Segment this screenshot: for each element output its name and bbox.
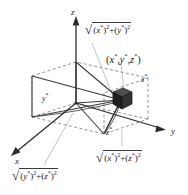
point-close-paren: ) — [137, 54, 141, 65]
y-axis-label: y — [171, 127, 175, 136]
radical-sign-xy: √ — [85, 22, 92, 37]
point-marker-cube — [113, 88, 132, 109]
x-axis-label: x — [15, 157, 19, 166]
z-axis-label: z — [71, 8, 75, 17]
y-axis-arrowhead — [155, 126, 166, 133]
inner-label-x-star: x* — [141, 73, 148, 84]
xy-power-2: 2 — [127, 24, 130, 30]
yz-power-2: 2 — [54, 170, 57, 176]
inner-label-y-star: y* — [42, 92, 49, 103]
radical-sign-yz: √ — [12, 168, 19, 183]
axes-lines — [16, 22, 160, 152]
inner-x-star: * — [145, 73, 148, 79]
leader-line-point — [121, 62, 124, 92]
distance-label-xy: √(x*)2+(y*)2 — [85, 22, 131, 36]
radicand-xz: (x*)2+(z*)2 — [103, 150, 142, 163]
inner-y-star: * — [46, 92, 49, 98]
radicand-yz: (y*)2+(z*)2 — [19, 168, 58, 181]
distance-label-xz: √(x*)2+(z*)2 — [96, 150, 142, 164]
origin-dot — [75, 102, 78, 105]
inner-label-z-star: z* — [106, 126, 112, 137]
radicand-xy: (x*)2+(y*)2 — [92, 22, 131, 35]
box-bottom-back-right — [76, 103, 148, 119]
x-axis-line — [16, 103, 76, 152]
x-axis-arrowhead — [11, 147, 21, 156]
distance-label-yz: √(y*)2+(z*)2 — [12, 168, 58, 182]
xz-power-2: 2 — [138, 152, 141, 158]
figure-canvas: z y x y* x* z* (x*,y*,z*) √(x*)2+(y*)2 √… — [0, 0, 188, 195]
point-coordinates-label: (x*,y*,z*) — [106, 53, 141, 65]
radical-sign-xz: √ — [96, 150, 103, 165]
z-axis-arrowhead — [73, 16, 80, 26]
inner-z-star: * — [109, 126, 112, 132]
axis-arrowheads — [11, 16, 166, 156]
box-top-face — [32, 62, 148, 93]
